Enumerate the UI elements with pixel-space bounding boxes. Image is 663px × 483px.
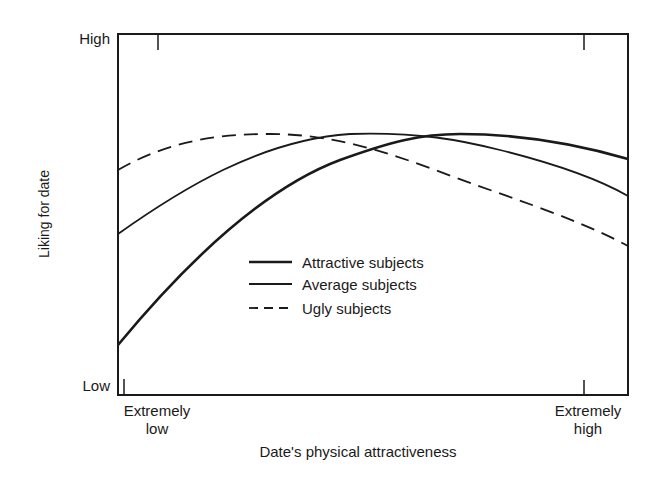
x-tick-high-line2: high [574, 420, 602, 437]
plot-frame [118, 34, 628, 395]
x-tick-low-line2: low [146, 420, 169, 437]
y-axis-title: Liking for date [36, 170, 52, 258]
y-tick-low: Low [82, 377, 110, 394]
legend-label-ugly: Ugly subjects [302, 300, 391, 317]
legend: Attractive subjects Average subjects Ugl… [249, 254, 424, 317]
y-tick-high: High [79, 30, 110, 47]
x-axis-title: Date's physical attractiveness [259, 443, 456, 460]
legend-label-average: Average subjects [302, 276, 417, 293]
x-tick-high-line1: Extremely [555, 402, 622, 419]
line-chart: High Low Liking for date Extremely low E… [0, 0, 663, 483]
legend-label-attractive: Attractive subjects [302, 254, 424, 271]
x-tick-low-line1: Extremely [124, 402, 191, 419]
series-line-ugly [118, 134, 628, 246]
